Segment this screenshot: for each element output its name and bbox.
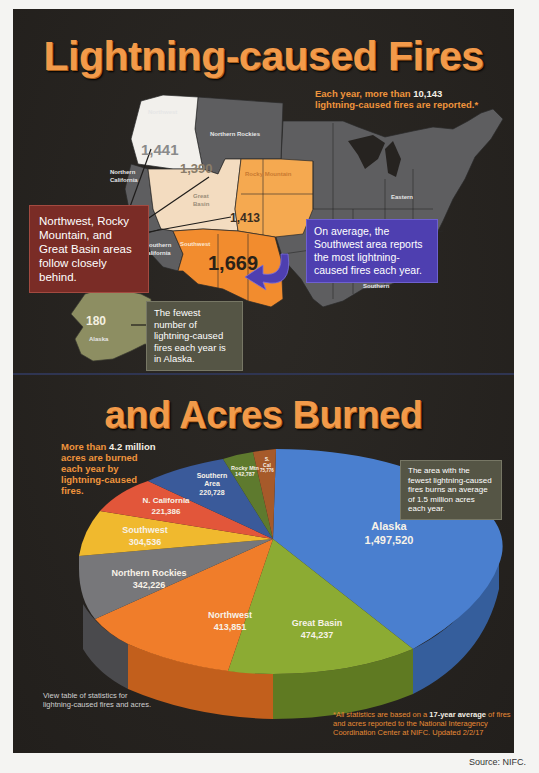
pie-value-rocky-mtn: 142,787 xyxy=(235,471,255,477)
pie-label-northwest: Northwest xyxy=(208,610,252,620)
pie-value-alaska: 1,497,520 xyxy=(365,534,414,546)
acres-pie-chart: Alaska 1,497,520 Great Basin 474,237 Nor… xyxy=(13,9,514,753)
pie-value-southern-area: 220,728 xyxy=(199,489,224,497)
pie-value-northwest: 413,851 xyxy=(214,622,247,632)
pie-label-alaska: Alaska xyxy=(371,520,407,532)
view-table-link[interactable]: View table of statistics for lightning-c… xyxy=(43,691,153,709)
pie-value-s-cal: 75,776 xyxy=(260,468,274,473)
pie-label-n-california: N. California xyxy=(142,496,190,505)
source-credit: Source: NIFC. xyxy=(469,757,526,767)
infographic-panel: Lightning-caused Fires Each year, more t… xyxy=(13,9,514,753)
pie-value-great-basin: 474,237 xyxy=(301,630,334,640)
pie-value-southwest: 304,536 xyxy=(129,537,162,547)
statistics-footnote: *All statistics are based on a 17-year a… xyxy=(333,710,513,737)
pie-value-n-california: 221,386 xyxy=(152,507,181,516)
pie-label-northern-rockies: Northern Rockies xyxy=(111,568,186,578)
pie-label-great-basin: Great Basin xyxy=(292,618,343,628)
pie-value-northern-rockies: 342,226 xyxy=(133,580,166,590)
pie-label-southwest: Southwest xyxy=(122,525,168,535)
callout-alaska-acres: The area with the fewest lightning-cause… xyxy=(400,460,502,520)
